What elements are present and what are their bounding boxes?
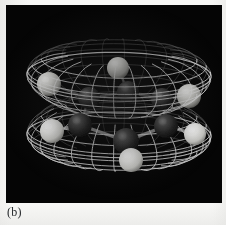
sphere-highlight <box>73 118 80 124</box>
molecule-scene <box>6 5 222 203</box>
carbon-front-left <box>68 113 92 137</box>
sphere-highlight <box>159 119 166 125</box>
isosurface-svg <box>6 5 222 203</box>
sphere-highlight <box>121 85 128 90</box>
carbon-sphere <box>154 114 178 138</box>
hydrogen-left <box>40 119 64 143</box>
hydrogen-bottom <box>119 148 143 172</box>
molecular-render-panel <box>6 5 222 203</box>
hydrogen-top <box>107 57 129 79</box>
sphere-highlight <box>188 127 195 132</box>
hydrogen-sphere <box>107 57 129 79</box>
figure-container: (b) <box>0 0 226 225</box>
carbon-front-right <box>154 114 178 138</box>
sphere-highlight <box>118 133 126 139</box>
hydrogen-right <box>184 123 206 145</box>
carbon-sphere <box>68 113 92 137</box>
hydrogen-sphere <box>40 119 64 143</box>
hydrogen-sphere <box>119 148 143 172</box>
hydrogen-sphere <box>184 123 206 145</box>
sphere-highlight <box>111 61 118 66</box>
sphere-highlight <box>124 153 131 159</box>
figure-caption: (b) <box>7 206 22 218</box>
sphere-highlight <box>45 124 52 130</box>
